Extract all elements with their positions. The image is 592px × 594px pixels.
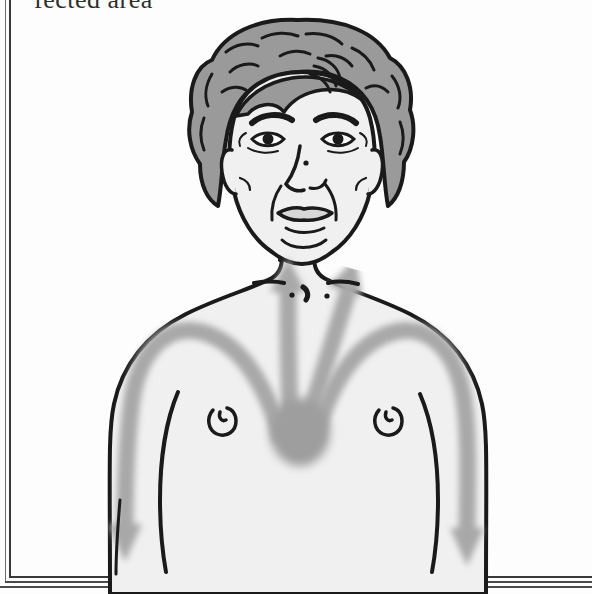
notch-dot-left [289,292,294,297]
left-collarbone [254,282,284,284]
chest-pain-illustration [0,0,592,594]
page-canvas: fected area [0,0,592,594]
left-eye [252,133,284,146]
sternum-pain-blob [270,398,330,466]
head [189,20,413,264]
right-eye [322,133,354,146]
mouth [278,208,332,220]
notch-dot-right [324,293,329,298]
right-collarbone [328,282,358,284]
nostril-mark [303,160,308,165]
